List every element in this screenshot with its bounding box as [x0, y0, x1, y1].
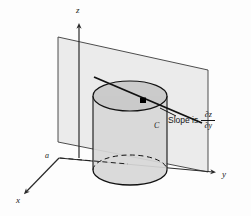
cylinder-top-ellipse: [93, 81, 167, 111]
z-axis-label: z: [76, 6, 80, 15]
x-axis-label: x: [16, 196, 20, 205]
y-axis-label: y: [222, 170, 226, 179]
slope-annotation: Slope is ∂z ∂y: [168, 110, 215, 130]
tangent-point-marker: [140, 98, 146, 104]
diagram-canvas: [0, 0, 251, 216]
fraction-denominator: ∂y: [203, 121, 213, 131]
figure-container: z y x a C Slope is ∂z ∂y: [0, 0, 251, 216]
fraction-numerator: ∂z: [204, 110, 213, 120]
curve-label-c: C: [154, 122, 159, 130]
partial-derivative-fraction: ∂z ∂y: [201, 110, 215, 130]
slope-annotation-text: Slope is: [168, 116, 198, 125]
origin-offset-label-a: a: [45, 152, 49, 160]
x-axis: [26, 158, 59, 192]
